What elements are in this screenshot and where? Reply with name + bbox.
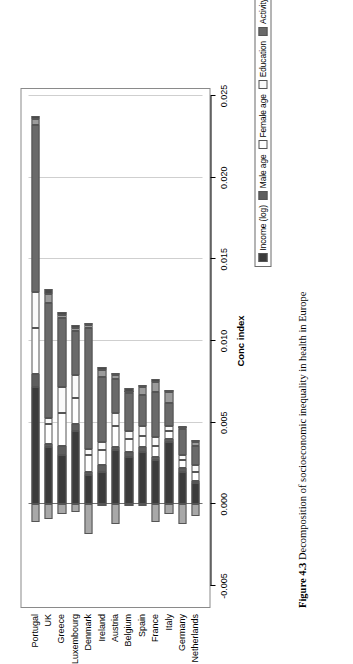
bar-group[interactable] [97, 96, 105, 586]
bar-group[interactable] [138, 96, 146, 586]
value-axis-title: Conc index [234, 315, 245, 366]
category-label: France [149, 614, 159, 642]
bar-segment [44, 289, 52, 294]
bar-segment [84, 472, 92, 475]
bar-group[interactable] [164, 96, 172, 586]
plot-inner [28, 96, 202, 586]
bar-segment [57, 387, 65, 413]
legend-swatch-icon [258, 80, 267, 89]
bar-segment [31, 292, 39, 328]
legend-label: Income (log) [258, 205, 266, 250]
bar-segment [191, 472, 199, 482]
plot-area [20, 88, 210, 608]
bar-segment [44, 447, 52, 504]
bar-segment [151, 446, 159, 457]
bar-segment [124, 452, 132, 457]
bar-group[interactable] [124, 96, 132, 586]
value-axis-line [210, 96, 211, 586]
bar-segment [151, 392, 159, 438]
bar-segment [151, 504, 159, 522]
bar-segment [178, 429, 186, 455]
bar-group[interactable] [111, 96, 119, 586]
bar-segment [84, 323, 92, 325]
bar-segment [124, 457, 132, 504]
bar-segment [44, 504, 52, 519]
bar-segment [111, 379, 119, 413]
bar-segment [31, 504, 39, 522]
bar-group[interactable] [71, 96, 79, 586]
bar-segment [164, 390, 172, 392]
bar-segment [178, 460, 186, 468]
legend-item: Female age [258, 94, 267, 149]
bar-segment [151, 379, 159, 382]
axis-tick [210, 177, 215, 178]
bar-segment [124, 439, 132, 452]
category-label: Denmark [82, 614, 92, 651]
bar-segment [57, 318, 65, 387]
bar-segment [178, 426, 186, 428]
bar-segment [97, 377, 105, 442]
bar-segment [31, 387, 39, 505]
bar-group[interactable] [57, 96, 65, 586]
bar-group[interactable] [191, 96, 199, 586]
bar-segment [97, 442, 105, 450]
axis-tick [210, 258, 215, 259]
legend-item: Activity status [258, 0, 267, 36]
legend-swatch-icon [258, 140, 267, 149]
legend-item: Education [258, 41, 267, 89]
axis-tick-label: 0.010 [218, 330, 228, 353]
category-label: Portugal [29, 614, 39, 648]
bar-segment [97, 450, 105, 465]
bar-segment [191, 442, 199, 445]
bar-segment [164, 403, 172, 426]
axis-tick-label: 0.005 [218, 411, 228, 434]
bar-segment [31, 374, 39, 387]
bar-segment [97, 370, 105, 377]
bar-segment [191, 440, 199, 442]
bar-group[interactable] [84, 96, 92, 586]
bar-segment [71, 331, 79, 375]
bar-segment [31, 125, 39, 292]
bar-segment [71, 375, 79, 398]
bar-segment [164, 442, 172, 504]
category-label: Italy [163, 614, 173, 631]
bar-segment [138, 387, 146, 395]
legend-label: Activity status [258, 0, 266, 24]
bar-segment [57, 312, 65, 315]
bar-group[interactable] [31, 96, 39, 586]
bar-segment [111, 413, 119, 426]
legend-item: Income (log) [258, 205, 267, 262]
bar-group[interactable] [178, 96, 186, 586]
bar-segment [84, 475, 92, 504]
bar-group[interactable] [151, 96, 159, 586]
bar-segment [178, 504, 186, 524]
bar-segment [44, 303, 52, 417]
bar-segment [164, 426, 172, 431]
bar-segment [164, 439, 172, 442]
bar-segment [31, 119, 39, 126]
figure-number: Figure 4.3 [296, 563, 307, 608]
bar-segment [57, 446, 65, 456]
axis-tick-label: 0.020 [218, 166, 228, 189]
bar-segment [111, 450, 119, 504]
bar-segment [124, 388, 132, 391]
bar-segment [164, 431, 172, 439]
bar-segment [44, 418, 52, 425]
bar-segment [111, 504, 119, 524]
bar-segment [164, 392, 172, 403]
bar-group[interactable] [44, 96, 52, 586]
bar-segment [44, 294, 52, 304]
axis-tick [210, 503, 215, 504]
axis-tick-label: 0.015 [218, 248, 228, 271]
bar-segment [71, 398, 79, 424]
bar-segment [84, 504, 92, 533]
bar-segment [178, 468, 186, 471]
category-label: Spain [136, 614, 146, 637]
bar-segment [138, 385, 146, 387]
axis-tick [210, 585, 215, 586]
bar-segment [57, 413, 65, 446]
bar-segment [138, 447, 146, 452]
bar-segment [178, 472, 186, 505]
bar-segment [151, 382, 159, 392]
bar-segment [151, 460, 159, 504]
